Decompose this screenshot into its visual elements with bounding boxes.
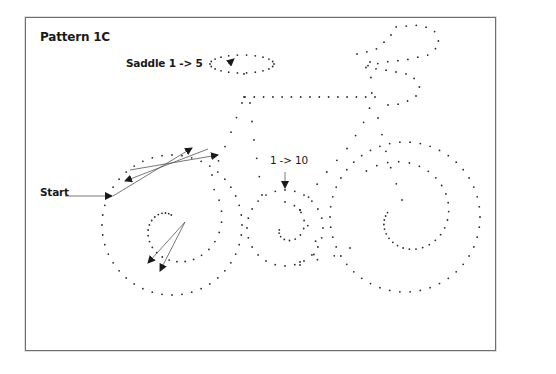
pattern-dot (387, 162, 389, 164)
pattern-dot (428, 244, 430, 246)
pattern-dot (237, 72, 239, 74)
pattern-dot (265, 194, 267, 196)
pattern-dot (370, 283, 372, 285)
pattern-dot (370, 150, 372, 152)
pattern-dot (147, 235, 149, 237)
pattern-dot (361, 277, 363, 279)
pattern-dot (397, 245, 399, 247)
pattern-dot (462, 169, 464, 171)
pattern-dot (395, 26, 397, 28)
pattern-dot (230, 262, 232, 264)
pattern-dot (278, 232, 280, 234)
pattern-dot (217, 171, 219, 173)
pattern-dot (328, 96, 330, 98)
pattern-dot (330, 226, 332, 228)
pattern-dot (415, 248, 417, 250)
pattern-dot (434, 31, 436, 33)
chainring-label: 1 -> 10 (270, 154, 308, 166)
saddle-label: Saddle 1 -> 5 (126, 57, 203, 69)
pattern-dot (340, 255, 342, 257)
pattern-dot (112, 186, 114, 188)
pattern-dot (214, 58, 216, 60)
pattern-dot (407, 100, 409, 102)
pattern-dot (263, 96, 265, 98)
pattern-dot (104, 204, 106, 206)
pattern-dot (371, 92, 373, 94)
pattern-dot (133, 283, 135, 285)
pattern-dot (274, 190, 276, 192)
pattern-dot (355, 135, 357, 137)
pattern-dot (299, 261, 301, 263)
pattern-dot (438, 40, 440, 42)
pattern-dot (376, 48, 378, 50)
pattern-dot (254, 55, 256, 57)
bicycle-dot-pattern (0, 0, 556, 374)
pattern-dot (251, 121, 253, 123)
pattern-dot (191, 291, 193, 293)
start-label: Start (40, 186, 69, 198)
pattern-dot (385, 233, 387, 235)
pattern-dot (240, 234, 242, 236)
pattern-dot (262, 70, 264, 72)
pattern-dot (230, 186, 232, 188)
pattern-dot (387, 61, 389, 63)
pattern-dot (284, 189, 286, 191)
pattern-dot (268, 58, 270, 60)
pattern-dot (397, 60, 399, 62)
pattern-dot (417, 56, 419, 58)
pattern-dot (221, 210, 223, 212)
pattern-dot (407, 59, 409, 61)
pattern-dot (142, 160, 144, 162)
pattern-dot (321, 237, 323, 239)
pattern-dot (149, 241, 151, 243)
pattern-dot (434, 239, 436, 241)
pattern-dot (335, 246, 337, 248)
pattern-dot (274, 264, 276, 266)
pattern-dot (224, 270, 226, 272)
pattern-dot (318, 96, 320, 98)
pattern-dot (387, 104, 389, 106)
pattern-dot (376, 165, 378, 167)
pattern-dot (272, 96, 274, 98)
pattern-dot (346, 169, 348, 171)
pattern-dot (448, 211, 450, 213)
pattern-dot (294, 264, 296, 266)
pattern-dot (429, 145, 431, 147)
pattern-dot (272, 61, 274, 63)
pattern-dot (104, 244, 106, 246)
pattern-dot (154, 216, 156, 218)
pattern-dot (273, 63, 275, 65)
pattern-dot (399, 141, 401, 143)
pattern-dot (326, 171, 328, 173)
pattern-dot (243, 96, 245, 98)
pattern-dot (181, 155, 183, 157)
pattern-dot (133, 165, 135, 167)
pattern-dot (200, 288, 202, 290)
pattern-dot (299, 264, 301, 266)
pattern-dot (171, 154, 173, 156)
pattern-dot (369, 61, 371, 63)
pattern-dot (389, 143, 391, 145)
pattern-dot (209, 283, 211, 285)
pattern-dot (346, 148, 348, 150)
pattern-dot (435, 48, 437, 50)
pattern-dot (389, 290, 391, 292)
pattern-dot (149, 224, 151, 226)
pattern-dot (444, 227, 446, 229)
pattern-dot (253, 139, 255, 141)
pattern-dot (361, 155, 363, 157)
pattern-dot (366, 51, 368, 53)
pattern-dot (385, 69, 387, 71)
pattern-dot (291, 96, 293, 98)
pattern-dot (161, 293, 163, 295)
pattern-dot (308, 196, 310, 198)
pattern-dot (201, 254, 203, 256)
pattern-dot (280, 236, 282, 238)
pattern-dot (228, 55, 230, 57)
pattern-dot (218, 160, 220, 162)
pattern-dot (210, 66, 212, 68)
pattern-dot (303, 228, 305, 230)
pattern-dot (356, 96, 358, 98)
pattern-dot (258, 176, 260, 178)
pattern-dot (353, 271, 355, 273)
